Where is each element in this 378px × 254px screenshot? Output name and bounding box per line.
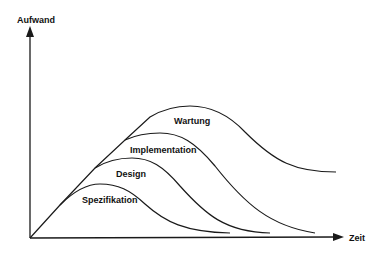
curve-implementation — [95, 133, 315, 233]
x-axis-arrow-icon — [333, 233, 344, 241]
y-axis-arrow-icon — [26, 26, 34, 37]
effort-over-time-diagram: Aufwand Zeit Spezifikation Design Implem… — [0, 0, 378, 254]
x-axis — [30, 237, 334, 238]
phase-label-spezifikation: Spezifikation — [82, 196, 138, 205]
diagram-canvas — [0, 0, 378, 254]
curve-wartung — [125, 106, 336, 172]
y-axis-label: Aufwand — [17, 16, 55, 25]
phase-label-implementation: Implementation — [130, 146, 197, 155]
curve-spezifikation — [30, 184, 230, 238]
phase-label-design: Design — [116, 170, 146, 179]
x-axis-label: Zeit — [349, 234, 365, 243]
phase-label-wartung: Wartung — [174, 117, 210, 126]
